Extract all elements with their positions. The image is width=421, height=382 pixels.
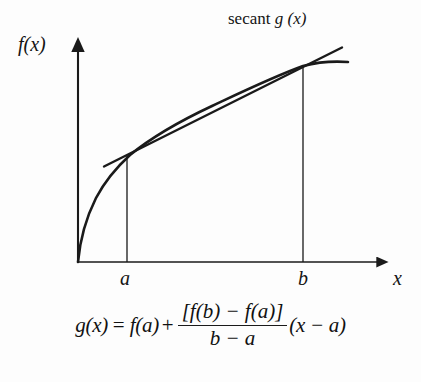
formula-plus: + — [162, 313, 174, 338]
secant-line — [104, 48, 342, 167]
secant-annotation: secant g (x) — [228, 10, 306, 27]
x-axis-label: x — [393, 268, 402, 288]
formula-numerator: [f(b) − f(a)] — [178, 300, 288, 325]
function-curve — [78, 62, 348, 262]
tick-label-b: b — [298, 268, 308, 288]
formula-fraction: [f(b) − f(a)] b − a — [178, 300, 288, 351]
formula-equals: = — [113, 313, 125, 338]
formula-block: g(x) = f(a) + [f(b) − f(a)] b − a (x − a… — [0, 300, 421, 351]
formula-term1: f(a) — [130, 313, 159, 338]
y-axis-label: f(x) — [18, 34, 46, 54]
figure-page: f(x) x a b secant g (x) g(x) = f(a) + [f… — [0, 0, 421, 382]
secant-word: secant — [228, 9, 270, 28]
formula-lhs: g(x) — [75, 313, 108, 338]
formula-denominator: b − a — [206, 326, 260, 351]
formula-factor: (x − a) — [289, 313, 345, 338]
secant-function-label: g (x) — [275, 9, 307, 28]
tick-label-a: a — [120, 268, 130, 288]
